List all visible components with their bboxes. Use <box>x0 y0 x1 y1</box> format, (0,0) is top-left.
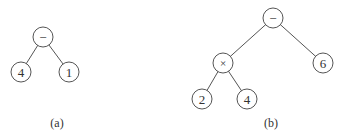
caption-a: (a) <box>50 116 63 130</box>
expression-trees-figure: − 4 1 (a) − × 6 2 <box>0 0 342 138</box>
node-a-right: 1 <box>59 62 79 82</box>
node-b-six: 6 <box>313 53 333 73</box>
node-label: 1 <box>66 65 73 80</box>
node-label: − <box>39 30 46 45</box>
node-b-two: 2 <box>192 89 212 109</box>
node-label: × <box>220 57 226 69</box>
node-a-left: 4 <box>11 62 31 82</box>
node-a-root: − <box>33 27 53 47</box>
caption-b: (b) <box>264 116 278 130</box>
node-label: 2 <box>199 92 206 107</box>
node-label: − <box>269 11 276 26</box>
node-b-four: 4 <box>237 89 257 109</box>
node-b-mul: × <box>213 53 233 73</box>
node-label: 4 <box>18 65 25 80</box>
node-label: 4 <box>244 92 251 107</box>
node-b-root: − <box>263 8 283 28</box>
tree-a: − 4 1 (a) <box>11 27 79 130</box>
node-label: 6 <box>320 56 327 71</box>
tree-b: − × 6 2 4 (b) <box>192 8 333 130</box>
